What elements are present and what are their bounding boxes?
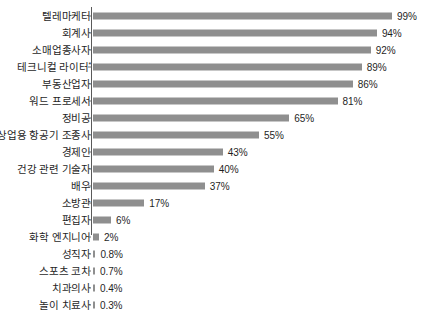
axis-tick <box>88 287 91 288</box>
bar <box>93 148 223 155</box>
category-axis-spine <box>91 7 92 235</box>
bar-row: 워드 프로세서81% <box>0 92 428 109</box>
bar <box>93 29 377 36</box>
bar-row: 편집자6% <box>0 211 428 228</box>
value-label: 89% <box>367 61 387 72</box>
value-label: 65% <box>294 112 314 123</box>
value-label: 37% <box>210 180 230 191</box>
bar <box>93 97 338 104</box>
value-label: 55% <box>264 129 284 140</box>
bar <box>93 301 95 308</box>
bar-container <box>93 29 428 36</box>
value-label: 0.8% <box>100 248 122 259</box>
bar-row: 상업용 항공기 조종사55% <box>0 126 428 143</box>
bar <box>93 250 95 257</box>
bar-container <box>93 12 428 19</box>
category-label: 소방관 <box>62 197 91 209</box>
category-label: 편집자 <box>62 214 91 226</box>
category-label: 놀이 치료사 <box>39 299 91 311</box>
category-label: 회계사 <box>62 27 91 39</box>
bar-container <box>93 114 428 121</box>
value-label: 86% <box>358 78 378 89</box>
category-label: 정비공 <box>62 112 91 124</box>
value-label: 81% <box>343 95 363 106</box>
value-label: 6% <box>116 214 130 225</box>
bar-container <box>93 80 428 87</box>
bar-row: 건강 관련 기술자40% <box>0 160 428 177</box>
bar-container <box>93 267 428 274</box>
value-label: 0.7% <box>100 265 122 276</box>
bar <box>93 233 99 240</box>
value-label: 0.3% <box>100 299 122 310</box>
bar-row: 정비공65% <box>0 109 428 126</box>
bar <box>93 199 144 206</box>
category-label: 부동산업자 <box>42 78 91 90</box>
bar-container <box>93 216 428 223</box>
axis-tick <box>88 304 91 305</box>
category-label: 성직자 <box>62 248 91 260</box>
bar-row: 놀이 치료사0.3% <box>0 296 428 313</box>
bar <box>93 114 289 121</box>
value-label: 17% <box>149 197 169 208</box>
category-label: 상업용 항공기 조종사 <box>0 129 91 141</box>
value-label: 99% <box>397 10 417 21</box>
value-label: 94% <box>382 27 402 38</box>
bar-row: 성직자0.8% <box>0 245 428 262</box>
value-label: 92% <box>376 44 396 55</box>
bar <box>93 182 205 189</box>
bar <box>93 63 362 70</box>
bar-row: 소매업종사자92% <box>0 41 428 58</box>
category-label: 워드 프로세서 <box>29 95 91 107</box>
bar-row: 소방관17% <box>0 194 428 211</box>
category-label: 경제인 <box>62 146 91 158</box>
category-label: 화학 엔지니어 <box>29 231 91 243</box>
bar <box>93 267 95 274</box>
category-label: 건강 관련 기술자 <box>17 163 91 175</box>
bar-container <box>93 250 428 257</box>
category-label: 스포츠 코치 <box>39 265 91 277</box>
bar-container <box>93 301 428 308</box>
value-label: 2% <box>104 231 118 242</box>
bar-row: 스포츠 코치0.7% <box>0 262 428 279</box>
value-label: 43% <box>228 146 248 157</box>
category-label: 텔레마케터 <box>42 10 91 22</box>
category-label: 치과의사 <box>52 282 91 294</box>
plot-area: 텔레마케터99%회계사94%소매업종사자92%테크니컬 라이터*89%부동산업자… <box>0 7 428 235</box>
bar <box>93 165 214 172</box>
axis-tick <box>88 236 91 237</box>
bar <box>93 12 392 19</box>
bar-container <box>93 199 428 206</box>
bar-row: 부동산업자86% <box>0 75 428 92</box>
category-label: 소매업종사자 <box>32 44 91 56</box>
bar <box>93 284 95 291</box>
bar-row: 치과의사0.4% <box>0 279 428 296</box>
bar-container <box>93 131 428 138</box>
bar-row: 배우37% <box>0 177 428 194</box>
bar <box>93 131 259 138</box>
bar-row: 회계사94% <box>0 24 428 41</box>
category-label: 테크니컬 라이터* <box>17 60 91 73</box>
bar-container <box>93 284 428 291</box>
bar-container <box>93 233 428 240</box>
bar-container <box>93 148 428 155</box>
bar-row: 경제인43% <box>0 143 428 160</box>
bar-container <box>93 165 428 172</box>
bar <box>93 46 371 53</box>
value-label: 40% <box>219 163 239 174</box>
bar-container <box>93 97 428 104</box>
bar <box>93 80 353 87</box>
value-label: 0.4% <box>100 282 122 293</box>
bar-row: 테크니컬 라이터*89% <box>0 58 428 75</box>
axis-tick <box>88 253 91 254</box>
axis-tick <box>88 270 91 271</box>
bar-row: 화학 엔지니어2% <box>0 228 428 245</box>
bar <box>93 216 111 223</box>
bar-row: 텔레마케터99% <box>0 7 428 24</box>
bar-container <box>93 182 428 189</box>
